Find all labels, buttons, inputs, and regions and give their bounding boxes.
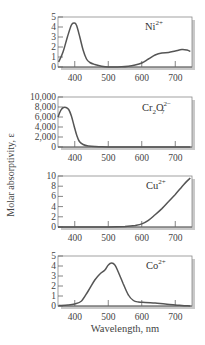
- x-tick-label: 600: [135, 312, 150, 322]
- y-tick-label: 2: [51, 212, 56, 222]
- y-tick-label: 0: [51, 62, 56, 72]
- y-tick-label: 0: [51, 301, 56, 311]
- absorption-spectra-figure: 01234540050060070002,0004,0006,0008,0001…: [0, 0, 205, 345]
- species-co-main: Co: [146, 260, 158, 271]
- x-tick-label: 600: [135, 153, 150, 163]
- y-tick-label: 0: [51, 142, 56, 152]
- species-label-co: Co2+: [146, 258, 166, 271]
- y-tick-label: 3: [51, 271, 56, 281]
- y-tick-label: 1: [51, 291, 56, 301]
- y-tick-label: 2: [51, 281, 56, 291]
- plot-frame: [58, 176, 192, 227]
- x-tick-label: 400: [68, 233, 83, 243]
- y-tick-label: 3: [51, 32, 56, 42]
- species-ni-charge: 2+: [156, 19, 163, 27]
- y-tick-label: 2: [51, 42, 56, 52]
- y-tick-label: 5: [51, 251, 56, 261]
- x-tick-label: 700: [168, 312, 183, 322]
- spectrum-panel-3: 012345400500600700: [51, 251, 195, 322]
- x-axis-label: Wavelength, nm: [58, 323, 192, 334]
- species-label-ni: Ni2+: [145, 19, 163, 32]
- y-tick-label: 4,000: [35, 122, 57, 132]
- y-tick-label: 6,000: [35, 112, 57, 122]
- y-tick-label: 4: [51, 261, 56, 271]
- species-co-charge: 2+: [158, 258, 165, 266]
- x-tick-label: 500: [101, 312, 116, 322]
- x-tick-label: 400: [68, 153, 83, 163]
- x-tick-label: 400: [68, 73, 83, 83]
- y-tick-label: 10,000: [30, 92, 56, 102]
- x-tick-label: 700: [168, 73, 183, 83]
- x-tick-label: 700: [168, 233, 183, 243]
- y-tick-label: 6: [51, 191, 56, 201]
- species-label-cu: Cu2+: [146, 178, 166, 191]
- y-tick-label: 1: [51, 52, 56, 62]
- y-tick-label: 0: [51, 222, 56, 232]
- species-cu-charge: 2+: [158, 178, 165, 186]
- species-cr-main: Cr: [142, 102, 153, 113]
- x-tick-label: 700: [168, 153, 183, 163]
- y-tick-label: 8: [51, 181, 56, 191]
- y-axis-label: Molar absorptivity, ε: [3, 112, 17, 237]
- x-tick-label: 500: [101, 153, 116, 163]
- species-o-sub: 7: [161, 108, 165, 116]
- x-tick-label: 600: [135, 233, 150, 243]
- species-label-cr2o7: Cr2O2−7: [142, 100, 165, 116]
- y-tick-label: 4: [51, 202, 56, 212]
- plot-frame: [58, 17, 192, 67]
- plot-frame: [58, 256, 192, 306]
- species-cr2o7-charge: 2−: [164, 100, 171, 108]
- x-tick-label: 600: [135, 73, 150, 83]
- y-tick-label: 4: [51, 22, 56, 32]
- spectrum-panel-0: 012345400500600700: [51, 12, 195, 83]
- y-axis-label-text: Molar absorptivity, ε: [5, 133, 16, 216]
- y-tick-label: 8,000: [35, 102, 57, 112]
- x-tick-label: 500: [101, 233, 116, 243]
- species-ni-main: Ni: [145, 21, 156, 32]
- x-tick-label: 400: [68, 312, 83, 322]
- y-tick-label: 5: [51, 12, 56, 22]
- species-cu-main: Cu: [146, 180, 158, 191]
- y-tick-label: 10: [47, 171, 57, 181]
- x-tick-label: 500: [101, 73, 116, 83]
- spectrum-panel-2: 0246810400500600700: [47, 171, 196, 243]
- y-tick-label: 2,000: [35, 132, 57, 142]
